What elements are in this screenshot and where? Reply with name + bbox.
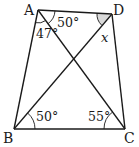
geometry-figure: A D B C 50° 47° x 50° 55°: [0, 0, 139, 147]
angle-label-acb: 55°: [88, 109, 110, 124]
side-ab: [14, 10, 38, 129]
vertex-label-d: D: [113, 2, 124, 18]
angle-arc-bac: [35, 21, 45, 23]
angle-label-dbc: 50°: [36, 109, 58, 124]
side-cd: [112, 14, 125, 129]
angle-label-adb: x: [101, 30, 109, 45]
vertex-label-b: B: [3, 130, 13, 146]
vertex-label-a: A: [23, 2, 35, 18]
angle-arc-dbc: [28, 113, 35, 129]
side-da: [38, 10, 112, 14]
vertex-label-c: C: [124, 130, 135, 146]
angle-label-bac: 47°: [36, 26, 58, 41]
angle-arc-dac: [48, 11, 55, 24]
angle-label-dac: 50°: [57, 15, 79, 30]
